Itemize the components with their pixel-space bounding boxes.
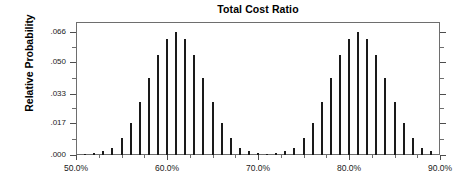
bar [421, 148, 423, 155]
bar [184, 39, 186, 155]
bar [330, 78, 332, 155]
x-tick-minor [213, 155, 214, 158]
bar [430, 151, 432, 155]
y-tick-label: .066 [26, 27, 66, 36]
bar [139, 102, 141, 155]
x-tick-label: 90.0% [410, 163, 459, 173]
y-tick-mark-right [440, 123, 446, 124]
bar [293, 148, 295, 155]
bar [366, 39, 368, 155]
bar [375, 55, 377, 155]
bar [230, 138, 232, 155]
bar [193, 55, 195, 155]
y-tick-mark-right [440, 94, 446, 95]
x-tick-label: 50.0% [46, 163, 106, 173]
bar [121, 138, 123, 155]
x-tick-minor [144, 155, 145, 158]
plot-area [76, 22, 440, 155]
bar [357, 32, 359, 155]
x-tick-minor [372, 155, 373, 158]
bar [384, 78, 386, 155]
x-tick-minor [99, 155, 100, 158]
bar [248, 151, 250, 155]
bar [275, 153, 277, 155]
bar [394, 102, 396, 155]
bar [312, 123, 314, 155]
bar [111, 148, 113, 155]
bar [303, 138, 305, 155]
x-tick-mark [349, 155, 350, 160]
bar [321, 102, 323, 155]
y-tick-label: .017 [26, 118, 66, 127]
x-tick-label: 70.0% [228, 163, 288, 173]
x-tick-minor [326, 155, 327, 158]
bar [102, 151, 104, 155]
x-tick-minor [395, 155, 396, 158]
bar [148, 78, 150, 155]
x-tick-mark [440, 155, 441, 160]
bar [202, 78, 204, 155]
y-tick-minor-right [440, 108, 444, 109]
bar [348, 39, 350, 155]
x-tick-minor [281, 155, 282, 158]
bar [257, 153, 259, 155]
bar [166, 39, 168, 155]
x-tick-minor [304, 155, 305, 158]
y-tick-label: .000 [26, 150, 66, 159]
bar [221, 123, 223, 155]
x-tick-mark [258, 155, 259, 160]
y-tick-mark-right [440, 62, 446, 63]
chart-figure: Total Cost Ratio Relative Probability .0… [0, 0, 459, 188]
y-tick-minor-right [440, 47, 444, 48]
y-tick-minor-right [440, 78, 444, 79]
x-tick-label: 60.0% [137, 163, 197, 173]
bar [84, 154, 86, 155]
bar [266, 154, 268, 155]
bar [339, 55, 341, 155]
y-tick-mark-right [440, 32, 446, 33]
x-tick-minor [190, 155, 191, 158]
y-tick-label: .050 [26, 57, 66, 66]
bar [412, 138, 414, 155]
x-tick-label: 80.0% [319, 163, 379, 173]
x-tick-mark [76, 155, 77, 160]
y-tick-minor-right [440, 139, 444, 140]
bar [284, 151, 286, 155]
bar [157, 55, 159, 155]
x-tick-mark [167, 155, 168, 160]
bar [239, 148, 241, 155]
chart-title: Total Cost Ratio [76, 3, 440, 15]
bar [175, 32, 177, 155]
x-tick-minor [417, 155, 418, 158]
bar [130, 123, 132, 155]
bar [403, 123, 405, 155]
x-tick-minor [122, 155, 123, 158]
y-tick-label: .033 [26, 89, 66, 98]
bar [93, 153, 95, 155]
x-tick-minor [235, 155, 236, 158]
bar [212, 102, 214, 155]
